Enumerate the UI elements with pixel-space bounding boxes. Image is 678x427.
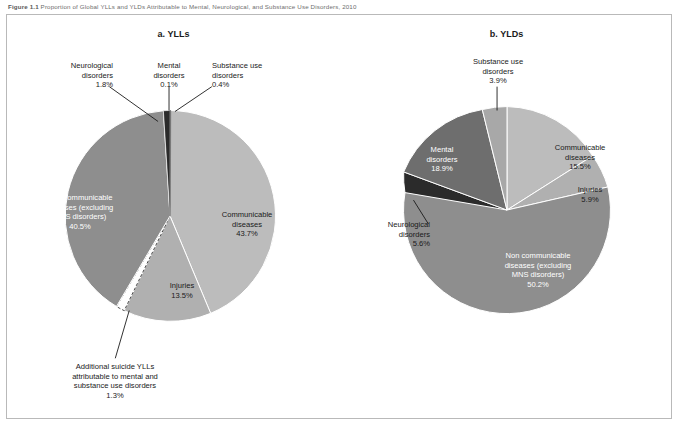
figure-caption: Figure 1.1 Proportion of Global YLLs and… <box>8 3 357 10</box>
figure-caption-text: Proportion of Global YLLs and YLDs Attri… <box>41 3 357 10</box>
value-ncd-a: 40.5% <box>25 222 135 232</box>
panel-ylls: a. YLLs Neurological disorders <box>7 15 340 418</box>
value-substance-a: 0.4% <box>212 80 312 90</box>
leader-suicide-a <box>115 311 129 359</box>
label-mental-b: Mental disorders 18.9% <box>402 145 482 174</box>
label-injuries-a: Injuries 13.5% <box>147 281 217 300</box>
slice-substance-use-disorders <box>170 111 171 216</box>
slice-neurological-disorders-b <box>404 172 507 210</box>
value-injuries-a: 13.5% <box>147 291 217 301</box>
value-neurological-b: 5.6% <box>262 239 430 249</box>
slice-neurological-disorders <box>163 111 170 216</box>
label-ncd-b: Non communicable diseases (excluding MNS… <box>480 251 596 289</box>
label-substance-b: Substance use disorders 3.9% <box>450 57 546 86</box>
value-mental-a: 0.1% <box>129 80 209 90</box>
label-injuries-b: Injuries 5.9% <box>555 185 625 204</box>
panel-a-title: a. YLLs <box>7 29 340 39</box>
label-additional-suicide-ylls: Additional suicide YLLs attributable to … <box>35 362 195 400</box>
figure-caption-label: Figure 1.1 <box>8 3 39 10</box>
label-communicable-b: Communicable diseases 15.5% <box>530 143 630 172</box>
value-injuries-b: 5.9% <box>555 195 625 205</box>
value-ncd-b: 50.2% <box>480 280 596 290</box>
value-substance-b: 3.9% <box>450 76 546 86</box>
label-neurological-b: Neurological disorders 5.6% <box>262 220 430 249</box>
panel-ylds: b. YLDs Substance use disorders 3.9% <box>340 15 673 418</box>
value-communicable-b: 15.5% <box>530 162 630 172</box>
label-mental-a: Mental disorders 0.1% <box>129 61 209 90</box>
panel-b-title: b. YLDs <box>340 29 673 39</box>
label-substance-a: Substance use disorders 0.4% <box>212 61 312 90</box>
label-neurological-a: Neurological disorders 1.8% <box>17 61 113 90</box>
leader-neurological-a <box>109 87 158 122</box>
value-additional-suicide-ylls: 1.3% <box>35 391 195 401</box>
value-neurological-a: 1.8% <box>17 80 113 90</box>
leader-substance-a <box>175 87 212 112</box>
slice-substance-use-disorders-b <box>482 107 507 210</box>
value-mental-b: 18.9% <box>402 164 482 174</box>
figure-frame: a. YLLs Neurological disorders <box>6 14 672 419</box>
label-ncd-a: Non communicable diseases (excluding MNS… <box>25 193 135 231</box>
